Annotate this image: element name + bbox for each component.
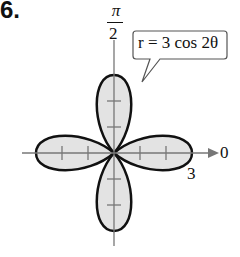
arrow-icon [208,148,219,158]
axis-label-zero: 0 [220,143,229,163]
radius-label: 3 [187,164,196,184]
equation-label: r = 3 cos 2θ [138,33,218,53]
